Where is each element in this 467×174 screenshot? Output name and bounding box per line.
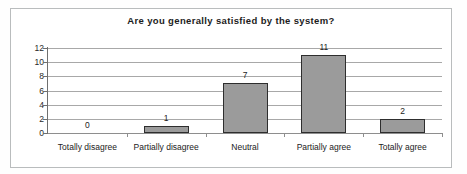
y-axis-tick-labels: 024681012 [12,48,44,133]
y-axis-tick-label: 10 [14,58,44,66]
gridline [48,62,442,63]
gridline [48,133,442,134]
bar-value-label: 0 [67,121,107,130]
bar-value-label: 11 [304,43,344,52]
y-axis-tick-mark [43,105,48,106]
x-axis-tick-mark [206,133,207,137]
chart-title: Are you generally satisfied by the syste… [10,15,452,26]
y-axis-tick-mark [43,119,48,120]
bar-value-label: 1 [146,114,186,123]
y-axis-tick-label: 0 [14,129,44,137]
y-axis-tick-label: 6 [14,87,44,95]
y-axis-tick-label: 4 [14,101,44,109]
x-axis-tick-label: Totally agree [353,142,453,152]
chart-figure: Are you generally satisfied by the syste… [0,0,467,174]
x-axis-tick-mark [127,133,128,137]
bar [301,55,346,133]
gridline [48,48,442,49]
x-axis-tick-mark [284,133,285,137]
y-axis-tick-label: 12 [14,44,44,52]
bar-value-label: 7 [225,71,265,80]
y-axis-tick-label: 2 [14,115,44,123]
y-axis-tick-mark [43,48,48,49]
y-axis-tick-mark [43,133,48,134]
y-axis-tick-label: 8 [14,72,44,80]
bar [380,119,425,133]
bar [144,126,189,133]
y-axis-tick-mark [43,91,48,92]
bar [223,83,268,133]
bar-value-label: 2 [383,107,423,116]
y-axis-tick-mark [43,62,48,63]
y-axis-tick-mark [43,76,48,77]
x-axis-tick-mark [442,133,443,137]
x-axis-tick-mark [363,133,364,137]
